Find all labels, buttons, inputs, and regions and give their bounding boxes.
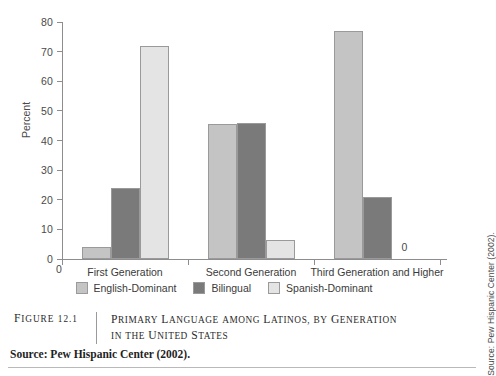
origin-zero-label: 0 xyxy=(56,263,62,275)
figure-number: FIGURE 12.1 xyxy=(0,312,96,325)
chart-legend: English-DominantBilingualSpanish-Dominan… xyxy=(0,282,448,294)
bar[interactable] xyxy=(334,31,363,259)
figure-caption-title: PRIMARY LANGUAGE AMONG LATINOS, BY GENER… xyxy=(111,312,411,344)
bar-group xyxy=(188,22,314,259)
bar[interactable] xyxy=(237,123,266,259)
x-axis-tick-mark xyxy=(188,259,189,265)
y-axis-tick: 60 xyxy=(41,75,62,87)
legend-item[interactable]: Bilingual xyxy=(193,282,251,294)
bar-group: 0 xyxy=(314,22,440,259)
y-axis-tick: 20 xyxy=(41,194,62,206)
y-axis-tick-label: 60 xyxy=(41,75,57,87)
bar-group xyxy=(62,22,188,259)
y-axis-tick: 70 xyxy=(41,46,62,58)
y-axis-tick-label: 50 xyxy=(41,105,57,117)
x-axis-category-label: Second Generation xyxy=(206,266,296,278)
legend-label: Spanish-Dominant xyxy=(286,282,372,294)
legend-label: English-Dominant xyxy=(94,282,177,294)
bars-layer: 0 xyxy=(62,22,440,259)
y-axis-tick-label: 70 xyxy=(41,46,57,58)
legend-item[interactable]: English-Dominant xyxy=(76,282,177,294)
legend-swatch xyxy=(268,282,280,294)
y-axis-tick: 50 xyxy=(41,105,62,117)
legend-swatch xyxy=(76,282,88,294)
x-axis-category-label: Third Generation and Higher xyxy=(310,266,443,278)
y-axis-tick-label: 10 xyxy=(41,223,57,235)
x-axis-category-label: First Generation xyxy=(87,266,162,278)
y-axis-tick: 30 xyxy=(41,164,62,176)
bar[interactable] xyxy=(266,240,295,259)
y-axis-tick-label: 80 xyxy=(41,16,57,28)
caption-divider xyxy=(96,312,97,344)
side-source-note: Source: Pew Hispanic Center (2002). xyxy=(486,232,496,376)
legend-label: Bilingual xyxy=(211,282,251,294)
bar[interactable] xyxy=(82,247,111,259)
y-axis-tick-label: 20 xyxy=(41,194,57,206)
legend-item[interactable]: Spanish-Dominant xyxy=(268,282,372,294)
bar[interactable] xyxy=(208,124,237,259)
y-axis-tick-label: 40 xyxy=(41,135,57,147)
bar[interactable] xyxy=(111,188,140,259)
y-axis-title: Percent xyxy=(20,102,32,138)
x-axis-tick-mark xyxy=(314,259,315,265)
y-axis-tick: 40 xyxy=(41,135,62,147)
x-axis-tick-mark xyxy=(62,259,63,265)
y-axis-tick-label: 30 xyxy=(41,164,57,176)
legend-swatch xyxy=(193,282,205,294)
x-axis-tick-mark xyxy=(440,259,441,265)
x-axis-line xyxy=(62,259,447,260)
bar[interactable] xyxy=(363,197,392,259)
source-footer: Source: Pew Hispanic Center (2002). xyxy=(10,348,190,360)
figure-caption-row: FIGURE 12.1 PRIMARY LANGUAGE AMONG LATIN… xyxy=(0,312,492,344)
bar[interactable] xyxy=(140,46,169,259)
bottom-rule xyxy=(8,367,476,368)
y-axis-tick: 80 xyxy=(41,16,62,28)
bar-value-label: 0 xyxy=(402,241,408,253)
y-axis-tick: 10 xyxy=(41,223,62,235)
